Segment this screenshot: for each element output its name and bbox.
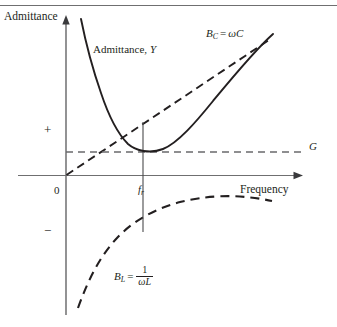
admittance-y-curve xyxy=(81,19,273,151)
positive-axis-tick-label: + xyxy=(44,123,51,136)
origin-label: 0 xyxy=(54,185,60,196)
bl-denominator: ωL xyxy=(136,276,153,288)
bc-susceptance-line xyxy=(67,38,273,175)
bc-equals-sign: = xyxy=(218,27,228,39)
resonance-frequency-label: fr xyxy=(138,185,144,197)
admittance-curve-label: Admittance,Y xyxy=(93,44,156,55)
bl-susceptance-label: BL= 1 ωL xyxy=(114,265,154,287)
figure-canvas xyxy=(0,0,337,327)
bc-symbol: B xyxy=(206,27,213,39)
x-axis-label: Frequency xyxy=(240,184,289,196)
admittance-vs-frequency-figure: Admittance Frequency Admittance,Y BC=ωC … xyxy=(0,0,337,327)
bl-symbol: B xyxy=(114,270,121,282)
x-axis-arrowhead xyxy=(294,172,304,179)
y-axis-label: Admittance xyxy=(4,11,58,23)
bl-numerator: 1 xyxy=(136,265,153,276)
admittance-curve-symbol: Y xyxy=(147,43,156,55)
negative-axis-tick-label: − xyxy=(44,224,51,237)
y-axis-arrowhead xyxy=(62,15,69,25)
admittance-curve-label-text: Admittance, xyxy=(93,43,147,55)
bc-expression: ωC xyxy=(228,27,243,39)
bl-susceptance-curve xyxy=(78,196,272,308)
bl-fraction: 1 ωL xyxy=(136,265,153,287)
conductance-g-label: G xyxy=(309,141,317,152)
bl-equals-sign: = xyxy=(125,270,135,282)
resonance-frequency-subscript: r xyxy=(141,188,144,197)
bc-susceptance-label: BC=ωC xyxy=(206,28,243,41)
